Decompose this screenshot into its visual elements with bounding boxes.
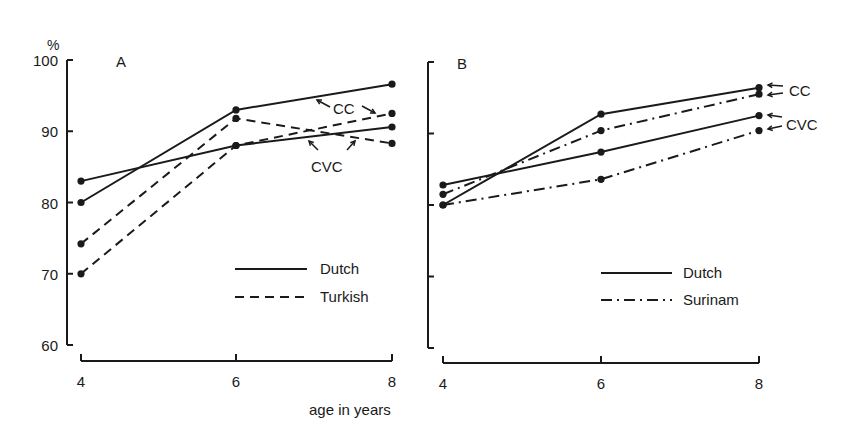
data-point-marker xyxy=(232,142,239,149)
line-chart-figure: % 10090807060468ADutchTurkishCCCVC 468BD… xyxy=(0,0,847,437)
annotation-label: CC xyxy=(333,100,355,117)
series-line xyxy=(443,131,759,205)
data-point-marker xyxy=(232,106,239,113)
y-tick-label: 80 xyxy=(41,195,58,212)
x-tick-label: 4 xyxy=(439,375,447,392)
panel-a: 10090807060468ADutchTurkishCCCVC xyxy=(33,52,396,390)
x-tick-label: 8 xyxy=(388,373,396,390)
data-point-marker xyxy=(439,191,446,198)
data-point-marker xyxy=(597,127,604,134)
data-point-marker xyxy=(597,176,604,183)
data-point-marker xyxy=(597,149,604,156)
data-point-marker xyxy=(77,270,84,277)
data-point-marker xyxy=(388,123,395,130)
data-point-marker xyxy=(388,140,395,147)
data-point-marker xyxy=(388,110,395,117)
annotation-label: CVC xyxy=(311,158,343,175)
panel-title: B xyxy=(457,55,467,72)
annotation-label: CVC xyxy=(786,116,818,133)
data-point-marker xyxy=(597,111,604,118)
data-point-marker xyxy=(755,84,762,91)
data-point-marker xyxy=(77,240,84,247)
data-point-marker xyxy=(232,115,239,122)
y-tick-label: 60 xyxy=(41,337,58,354)
y-tick-label: 100 xyxy=(33,52,58,69)
x-tick-label: 4 xyxy=(77,373,85,390)
series-line xyxy=(81,113,392,273)
legend-label: Dutch xyxy=(320,260,359,277)
data-point-marker xyxy=(439,181,446,188)
data-point-marker xyxy=(755,127,762,134)
series-turkish-cvc xyxy=(77,110,395,278)
series-dutch-cc xyxy=(439,84,762,208)
x-axis-label: age in years xyxy=(309,401,391,418)
chart-canvas: % 10090807060468ADutchTurkishCCCVC 468BD… xyxy=(0,0,847,437)
annotation-label: CC xyxy=(789,82,811,99)
x-tick-label: 8 xyxy=(755,375,763,392)
x-tick-label: 6 xyxy=(597,375,605,392)
series-turkish-cc xyxy=(77,115,395,248)
y-tick-label: 90 xyxy=(41,123,58,140)
data-point-marker xyxy=(388,81,395,88)
series-line xyxy=(81,127,392,181)
legend-label: Dutch xyxy=(683,264,722,281)
y-tick-label: 70 xyxy=(41,266,58,283)
data-point-marker xyxy=(77,178,84,185)
data-point-marker xyxy=(439,201,446,208)
panel-title: A xyxy=(116,53,126,70)
data-point-marker xyxy=(755,112,762,119)
series-line xyxy=(81,118,392,243)
series-surinam-cvc xyxy=(439,127,762,209)
data-point-marker xyxy=(77,199,84,206)
panel-b: 468BDutchSurinamCCCVC xyxy=(428,55,818,392)
legend-label: Surinam xyxy=(683,291,739,308)
y-axis-unit-label: % xyxy=(47,37,59,53)
legend-label: Turkish xyxy=(320,288,369,305)
data-point-marker xyxy=(755,91,762,98)
x-tick-label: 6 xyxy=(232,373,240,390)
